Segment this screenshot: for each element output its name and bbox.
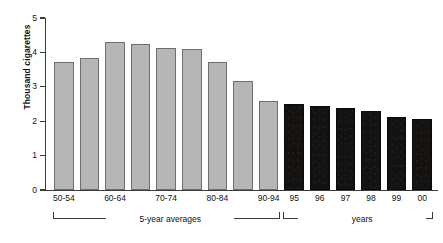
bar-50-54 (54, 62, 74, 190)
x-axis-tick-label: 70-74 (146, 193, 186, 203)
x-axis-tick-label: 50-54 (44, 193, 84, 203)
y-axis-tick-label: 3 (22, 81, 37, 91)
y-axis-tick (40, 155, 45, 156)
y-axis-tick-label: 0 (22, 185, 37, 195)
bar-60-64 (105, 42, 125, 190)
y-axis-tick-label: 4 (22, 47, 37, 57)
y-axis-tick (40, 52, 45, 53)
bar-55-59 (80, 58, 100, 190)
x-axis-tick-label: 00 (402, 193, 442, 203)
bar-96 (310, 106, 330, 190)
plot-area (46, 18, 438, 190)
bar-90-94 (259, 101, 279, 190)
bar-98 (361, 111, 381, 190)
bar-85-89 (233, 81, 253, 190)
bar-65-69 (131, 44, 151, 190)
bar-97 (336, 108, 356, 190)
years-bracket-label: years (298, 214, 426, 224)
five-year-averages-bracket-label: 5-year averages (106, 214, 234, 224)
bar-80-84 (208, 62, 228, 190)
y-axis-tick (40, 17, 45, 18)
x-axis-tick-label: 60-64 (95, 193, 135, 203)
y-axis-tick (40, 189, 45, 190)
bar-chart-figure: Thousand cigarettes 543210 50-5460-6470-… (0, 0, 443, 243)
bar-95 (284, 104, 304, 190)
bar-70-74 (156, 48, 176, 190)
x-axis-tick-label: 80-84 (197, 193, 237, 203)
y-axis-tick (40, 121, 45, 122)
bar-75-79 (182, 49, 202, 190)
y-axis-tick-label: 5 (22, 13, 37, 23)
y-axis-tick (40, 86, 45, 87)
bar-00 (412, 119, 432, 190)
bar-99 (387, 117, 407, 190)
y-axis-tick-label: 2 (22, 116, 37, 126)
y-axis-tick-label: 1 (22, 150, 37, 160)
